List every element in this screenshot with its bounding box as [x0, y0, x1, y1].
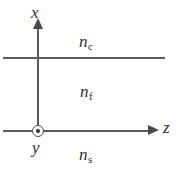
waveguide-diagram: x z y nc nf ns [0, 0, 182, 175]
film-index-label: nf [80, 83, 92, 100]
cladding-index-subscript: c [88, 40, 93, 52]
film-index-subscript: f [89, 90, 93, 102]
z-axis-line [3, 130, 155, 132]
substrate-index-symbol: n [79, 145, 88, 164]
z-axis-arrowhead-icon [148, 125, 159, 135]
cladding-film-interface-line [3, 57, 165, 59]
y-axis-out-of-page-icon [32, 125, 44, 137]
film-index-symbol: n [80, 82, 89, 101]
z-axis-label: z [163, 119, 170, 136]
substrate-index-label: ns [79, 146, 92, 163]
substrate-index-subscript: s [88, 153, 92, 165]
cladding-index-symbol: n [79, 32, 88, 51]
x-axis-line [37, 25, 39, 130]
cladding-index-label: nc [79, 33, 92, 50]
x-axis-label: x [31, 4, 39, 21]
y-axis-label: y [32, 139, 40, 156]
